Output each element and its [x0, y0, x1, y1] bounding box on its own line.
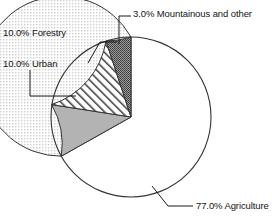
slice-label-agriculture: 77.0% Agriculture	[196, 200, 269, 211]
slice-label-urban: 10.0% Urban	[3, 58, 57, 69]
leader-line-agriculture	[152, 186, 193, 206]
slice-label-mountainous: 3.0% Mountainous and other	[133, 8, 252, 19]
pie-chart: 3.0% Mountainous and other 10.0% Forestr…	[0, 0, 272, 222]
slice-label-forestry: 10.0% Forestry	[3, 27, 66, 38]
